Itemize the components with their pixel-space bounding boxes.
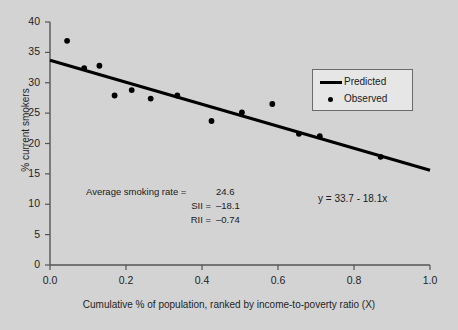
x-axis-tick-label: 0.2 [106,274,146,286]
observed-data-point [317,133,323,139]
annotation-row-0-label: Average smoking rate = [86,186,186,197]
chart-legend: Predicted Observed [312,69,413,111]
x-axis-ticks [50,265,430,270]
observed-data-point [97,63,103,69]
observed-data-point [64,38,70,44]
annotation-row-0-value: 24.6 [216,186,235,197]
y-axis-tick-label: 40 [18,15,40,27]
observed-data-point [296,131,302,137]
observed-data-point [269,101,275,107]
x-axis-tick-label: 0.0 [30,274,70,286]
legend-label-observed: Observed [344,93,387,104]
x-axis-tick-label: 0.4 [182,274,222,286]
legend-predicted-line-swatch [320,81,342,84]
observed-data-point [148,96,154,102]
y-axis-tick-label: 5 [18,228,40,240]
legend-observed-dot-swatch [328,97,333,102]
observed-data-point [129,87,135,93]
chart-figure: 0510152025303540 0.00.20.40.60.81.0 % cu… [0,0,458,330]
x-axis-tick-label: 1.0 [410,274,450,286]
x-axis-tick-label: 0.8 [334,274,374,286]
regression-equation-label: y = 33.7 - 18.1x [318,193,387,204]
y-axis-tick-label: 0 [18,258,40,270]
x-axis-title: Cumulative % of population, ranked by in… [0,299,458,310]
observed-data-point [209,118,215,124]
x-axis-tick-label: 0.6 [258,274,298,286]
observed-data-point [239,110,245,116]
axes [45,22,430,270]
y-axis-title: % current smokers [20,55,31,205]
annotation-row-1-label: SII = [156,200,211,211]
annotation-row-1-value: –18.1 [216,200,240,211]
observed-data-point [378,154,384,160]
legend-label-predicted: Predicted [344,76,386,87]
observed-data-point [112,93,118,99]
observed-data-point [81,65,87,71]
y-axis-ticks [45,22,50,265]
annotation-row-2-label: RII = [156,214,211,225]
annotation-row-2-value: –0.74 [216,214,240,225]
observed-data-point [174,93,180,99]
